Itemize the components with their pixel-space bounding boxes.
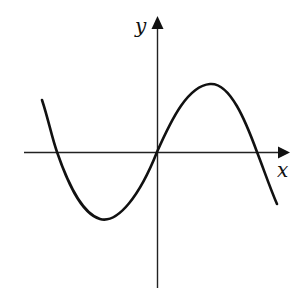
y-axis-label: y: [134, 14, 147, 38]
x-axis-arrow-icon: [278, 147, 290, 159]
curve-line: [42, 84, 277, 220]
x-axis-label: x: [277, 158, 288, 182]
chart-canvas: y x: [0, 0, 308, 290]
y-axis-arrow-icon: [152, 16, 164, 29]
